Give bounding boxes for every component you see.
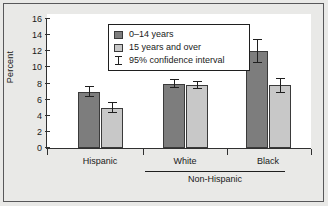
y-axis-tick-mark bbox=[45, 18, 50, 19]
legend-label: 95% confidence interval bbox=[129, 55, 225, 66]
y-axis-tick: 10 bbox=[0, 62, 54, 72]
legend-item-confidence-interval: 95% confidence interval bbox=[114, 54, 244, 67]
y-axis-tick: 0 bbox=[0, 143, 54, 153]
legend-item-15-years-and-over: 15 years and over bbox=[114, 41, 244, 54]
legend-label: 15 years and over bbox=[129, 42, 201, 53]
y-axis-tick-label: 2 bbox=[37, 127, 42, 137]
y-axis-tick: 4 bbox=[0, 111, 54, 121]
y-axis-tick-label: 6 bbox=[37, 95, 42, 105]
y-axis-tick-label: 10 bbox=[32, 62, 42, 72]
error-bar bbox=[85, 86, 94, 97]
y-axis-tick-mark bbox=[45, 115, 50, 116]
bar bbox=[163, 84, 185, 148]
error-bar bbox=[170, 79, 179, 88]
y-axis-tick: 6 bbox=[0, 95, 54, 105]
y-axis-tick-label: 12 bbox=[32, 46, 42, 56]
dark-gray-swatch-icon bbox=[114, 31, 123, 39]
y-axis-tick: 16 bbox=[0, 14, 54, 24]
error-bar bbox=[253, 39, 262, 62]
y-axis-tick-label: 8 bbox=[37, 79, 42, 89]
y-axis-tick-mark bbox=[45, 99, 50, 100]
y-axis-tick-label: 14 bbox=[32, 30, 42, 40]
y-axis-tick-mark bbox=[45, 66, 50, 67]
y-axis-tick-mark bbox=[45, 83, 50, 84]
non-hispanic-bracket-label: Non-Hispanic bbox=[145, 174, 285, 184]
x-axis-tick-mark bbox=[47, 149, 48, 155]
bar bbox=[78, 92, 100, 148]
y-axis-tick: 14 bbox=[0, 30, 54, 40]
y-axis-tick-mark bbox=[45, 131, 50, 132]
y-axis-tick: 12 bbox=[0, 46, 54, 56]
bar bbox=[269, 85, 291, 148]
bar bbox=[186, 85, 208, 148]
legend-label: 0–14 years bbox=[129, 29, 174, 40]
non-hispanic-bracket-line bbox=[145, 171, 285, 172]
y-axis-tick-label: 16 bbox=[32, 14, 42, 24]
legend-item-0-14-years: 0–14 years bbox=[114, 28, 244, 41]
x-axis-group-label: Black bbox=[228, 156, 308, 166]
y-axis-tick: 8 bbox=[0, 79, 54, 89]
x-axis-tick-mark bbox=[143, 149, 144, 155]
y-axis-tick-mark bbox=[45, 34, 50, 35]
x-axis-group-label: Hispanic bbox=[60, 156, 140, 166]
light-gray-swatch-icon bbox=[114, 44, 123, 52]
error-bar bbox=[108, 102, 117, 113]
chart-figure: Percent 0246810121416 HispanicWhiteBlack… bbox=[0, 0, 328, 206]
x-axis-line bbox=[46, 148, 311, 149]
error-bar-icon bbox=[114, 56, 123, 65]
error-bar bbox=[276, 78, 285, 93]
bar bbox=[101, 108, 123, 148]
error-bar bbox=[193, 81, 202, 89]
y-axis-tick-mark bbox=[45, 50, 50, 51]
x-axis-tick-mark bbox=[311, 149, 312, 155]
x-axis-tick-mark bbox=[227, 149, 228, 155]
chart-legend: 0–14 years 15 years and over 95% confide… bbox=[108, 24, 250, 71]
x-axis-group-label: White bbox=[145, 156, 225, 166]
y-axis-tick-mark bbox=[45, 147, 50, 148]
y-axis-tick-label: 0 bbox=[37, 143, 42, 153]
y-axis-tick: 2 bbox=[0, 127, 54, 137]
y-axis-tick-label: 4 bbox=[37, 111, 42, 121]
